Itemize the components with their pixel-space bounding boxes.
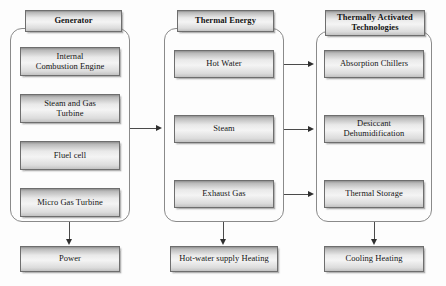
generator-to-thermal-arrowhead: [156, 125, 162, 131]
thermally-activated-technologies-header: Thermally Activated Technologies: [325, 10, 425, 36]
tat-item-2-line1: Thermal Storage: [342, 189, 406, 199]
generator-item-0-line1: Internal: [57, 51, 84, 61]
steam-to-tat-line: [284, 129, 308, 130]
tat-header-line2: Technologies: [351, 22, 398, 32]
thermal-energy-item-hot-water[interactable]: Hot Water: [174, 50, 274, 78]
tat-item-1-line2: Dehumidification: [344, 128, 405, 138]
generator-to-power-arrowhead: [66, 239, 72, 245]
tat-output-cooling-heating[interactable]: Cooling Heating: [324, 246, 424, 272]
tat-output-label: Cooling Heating: [342, 254, 405, 264]
tat-item-desiccant-dehumidification[interactable]: Desiccant Dehumidification: [324, 115, 424, 143]
thermal-item-1-line1: Steam: [210, 124, 238, 134]
generator-item-1-line1: Steam and Gas: [44, 98, 96, 108]
tat-header-line1: Thermally Activated: [337, 12, 413, 22]
tat-item-0-line1: Absorption Chillers: [337, 59, 411, 69]
generator-to-power-line: [69, 222, 70, 239]
tat-item-absorption-chillers[interactable]: Absorption Chillers: [324, 50, 424, 78]
generator-header: Generator: [25, 10, 122, 32]
thermal-energy-header-label: Thermal Energy: [192, 16, 259, 26]
generator-item-internal-combustion-engine[interactable]: Internal Combustion Engine: [20, 47, 120, 76]
thermal-output-label: Hot-water supply Heating: [176, 254, 271, 264]
generator-output-label: Power: [56, 254, 84, 264]
tat-item-thermal-storage[interactable]: Thermal Storage: [324, 180, 424, 208]
generator-item-fluel-cell[interactable]: Fluel cell: [20, 141, 120, 170]
hot-water-to-tat-line: [284, 64, 308, 65]
generator-header-label: Generator: [51, 16, 95, 26]
generator-item-0-line2: Combustion Engine: [36, 61, 105, 71]
generator-output-power[interactable]: Power: [20, 246, 120, 272]
thermal-energy-item-exhaust-gas[interactable]: Exhaust Gas: [174, 180, 274, 208]
thermal-item-2-line1: Exhaust Gas: [199, 189, 248, 199]
generator-item-steam-and-gas-turbine[interactable]: Steam and Gas Turbine: [20, 94, 120, 123]
tat-to-output-arrowhead: [371, 239, 377, 245]
steam-to-tat-arrowhead: [308, 126, 314, 132]
thermal-item-0-line1: Hot Water: [203, 59, 244, 69]
thermal-energy-item-steam[interactable]: Steam: [174, 115, 274, 143]
generator-item-3-line1: Micro Gas Turbine: [34, 198, 106, 208]
hot-water-to-tat-arrowhead: [308, 61, 314, 67]
generator-item-1-line2: Turbine: [57, 108, 84, 118]
exhaust-gas-to-tat-arrowhead: [308, 191, 314, 197]
tat-to-output-line: [374, 222, 375, 239]
generator-to-thermal-line: [130, 128, 156, 129]
thermal-to-output-line: [223, 222, 224, 239]
diagram-canvas: Generator Internal Combustion Engine Ste…: [0, 0, 446, 286]
thermal-energy-output-hot-water-supply-heating[interactable]: Hot-water supply Heating: [170, 246, 278, 272]
tat-item-1-line1: Desiccant: [357, 118, 391, 128]
thermal-to-output-arrowhead: [220, 239, 226, 245]
exhaust-gas-to-tat-line: [284, 194, 308, 195]
generator-item-2-line1: Fluel cell: [51, 151, 89, 161]
thermal-energy-header: Thermal Energy: [177, 10, 274, 32]
generator-item-micro-gas-turbine[interactable]: Micro Gas Turbine: [20, 188, 120, 217]
